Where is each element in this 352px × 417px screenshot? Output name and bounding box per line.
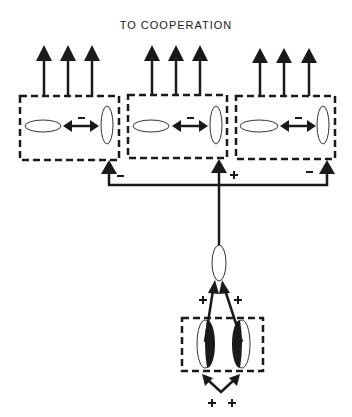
- output-arrow-middle-3: [192, 45, 208, 96]
- output-arrow-middle-1: [144, 45, 160, 96]
- horizontal-ellipse-right: [240, 120, 278, 132]
- bottom-ellipse-left: [197, 320, 215, 368]
- output-arrow-right-2: [276, 48, 292, 96]
- vertical-ellipse-middle: [210, 106, 222, 144]
- output-arrow-right-1: [252, 48, 268, 96]
- double-arrow-left: [63, 120, 99, 132]
- output-arrow-left-1: [36, 45, 52, 97]
- feedback-arrow-right: [319, 160, 335, 174]
- double-arrow-middle: [172, 120, 208, 132]
- double-arrow-right: [280, 120, 316, 132]
- hub-input-sign-right: [234, 296, 242, 304]
- diagram-canvas: [0, 0, 352, 417]
- feedback-sign-middle: [230, 171, 238, 179]
- feedback-arrow-left: [101, 160, 117, 174]
- horizontal-ellipse-middle: [133, 120, 169, 132]
- external-input-sign-right: [228, 399, 236, 407]
- external-input-arrows: [208, 380, 234, 392]
- horizontal-ellipse-left: [25, 120, 61, 132]
- hub-ellipse: [212, 245, 226, 281]
- vertical-ellipse-right: [317, 106, 329, 144]
- module-box-bottom: [182, 318, 263, 371]
- output-arrow-right-3: [301, 48, 317, 96]
- output-arrows: [36, 45, 317, 97]
- feedback-arrow-middle: [211, 159, 227, 173]
- hub-input-sign-left: [199, 296, 207, 304]
- vertical-ellipse-left: [101, 106, 113, 144]
- external-input-sign-left: [208, 399, 216, 407]
- output-arrow-left-3: [84, 45, 100, 97]
- output-arrow-middle-2: [168, 45, 184, 96]
- output-arrow-left-2: [60, 45, 76, 97]
- feedback-lines: [109, 172, 327, 246]
- bottom-ellipse-right: [232, 320, 250, 368]
